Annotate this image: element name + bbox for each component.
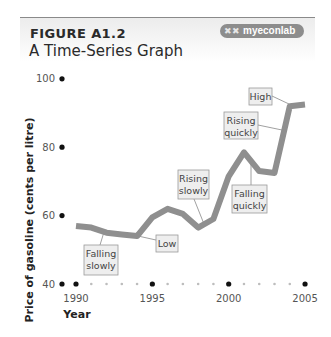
minor-tick-dot <box>166 283 169 286</box>
y-tick-label: 100 <box>36 73 55 84</box>
x-tick-dot <box>226 281 231 286</box>
y-axis-tick-labels: 406080100 <box>36 73 55 289</box>
annotation-rising-quickly: Risingquickly <box>224 112 258 139</box>
x-axis-minor-dots <box>90 283 291 286</box>
y-tick-label: 40 <box>42 279 55 290</box>
x-tick-label: 1990 <box>63 293 88 304</box>
y-tick-label: 80 <box>42 142 55 153</box>
annotation-text: slowly <box>179 185 209 196</box>
annotation-text: quickly <box>224 127 258 138</box>
y-axis-title: Price of gasoline (cents per litre) <box>23 117 36 322</box>
leader-line <box>138 236 156 240</box>
minor-tick-dot <box>182 283 185 286</box>
annotation-text: Falling <box>234 188 264 199</box>
y-tick-dot <box>59 76 64 81</box>
minor-tick-dot <box>136 283 139 286</box>
minor-tick-dot <box>121 283 124 286</box>
minor-tick-dot <box>273 283 276 286</box>
y-tick-dot <box>59 213 64 218</box>
leader-line <box>194 199 204 224</box>
annotation-text: Rising <box>179 173 208 184</box>
y-tick-dot <box>59 145 64 150</box>
annotation-falling-quickly: Fallingquickly <box>232 185 267 213</box>
minor-tick-dot <box>90 283 93 286</box>
leader-line <box>272 96 289 104</box>
annotation-text: slowly <box>86 260 116 271</box>
x-axis-tick-labels: 1990199520002005 <box>63 293 318 304</box>
x-tick-dot <box>73 281 78 286</box>
x-axis-title: Year <box>62 308 91 321</box>
minor-tick-dot <box>243 283 246 286</box>
annotation-text: Falling <box>86 248 116 259</box>
minor-tick-dot <box>288 283 291 286</box>
annotation-text: High <box>250 91 272 102</box>
x-tick-label: 2005 <box>292 293 317 304</box>
minor-tick-dot <box>197 283 200 286</box>
minor-tick-dot <box>105 283 108 286</box>
annotations: FallingslowlyLowRisingslowlyFallingquick… <box>84 88 272 275</box>
annotation-high: High <box>249 88 272 105</box>
annotation-falling-slowly: Fallingslowly <box>84 245 118 275</box>
annotation-rising-slowly: Risingslowly <box>178 170 209 199</box>
annotation-text: Rising <box>227 115 256 126</box>
time-series-chart: 406080100 1990199520002005 Price of gaso… <box>0 0 331 337</box>
y-tick-dot <box>59 281 64 286</box>
minor-tick-dot <box>212 283 215 286</box>
x-tick-label: 2000 <box>216 293 241 304</box>
x-tick-dot <box>302 281 307 286</box>
x-tick-dot <box>150 281 155 286</box>
leader-line <box>258 125 282 130</box>
annotation-text: Low <box>158 238 177 249</box>
y-tick-label: 60 <box>42 210 55 221</box>
annotation-text: quickly <box>233 200 267 211</box>
x-tick-label: 1995 <box>140 293 165 304</box>
minor-tick-dot <box>258 283 261 286</box>
annotation-low: Low <box>156 235 178 252</box>
